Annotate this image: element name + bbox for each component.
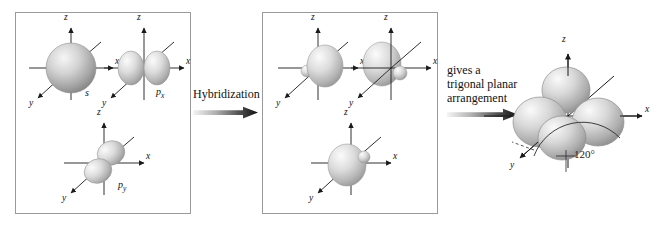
axis-label-y: y: [510, 160, 514, 170]
axis-label-z: z: [344, 107, 348, 117]
axis-label-z: z: [384, 12, 388, 22]
axis-label-x: x: [146, 151, 150, 161]
atomic-orbitals-panel: z x y s z x y: [15, 12, 191, 214]
figure-canvas: z x y s z x y: [0, 0, 660, 226]
axis-label-y: y: [62, 193, 66, 203]
axis-label-y: y: [309, 193, 313, 203]
hybrid-orbitals-panel: z x y z x y: [262, 12, 438, 214]
axis-label-y: y: [276, 98, 280, 108]
axis-label-x: x: [186, 56, 190, 66]
axis-label-z: z: [311, 12, 315, 22]
axis-label-x: x: [393, 151, 397, 161]
bond-angle-label: 120°: [574, 148, 595, 160]
orbital-label-py: py: [118, 179, 126, 193]
axis-label-z: z: [562, 34, 566, 44]
axis-label-z: z: [64, 12, 68, 22]
axis-label-x: x: [645, 104, 649, 114]
axis-label-z: z: [137, 12, 141, 22]
orbital-label-px: px: [156, 86, 164, 100]
axis-label-x: x: [433, 56, 437, 66]
axis-label-y: y: [29, 98, 33, 108]
axis-label-z: z: [97, 107, 101, 117]
